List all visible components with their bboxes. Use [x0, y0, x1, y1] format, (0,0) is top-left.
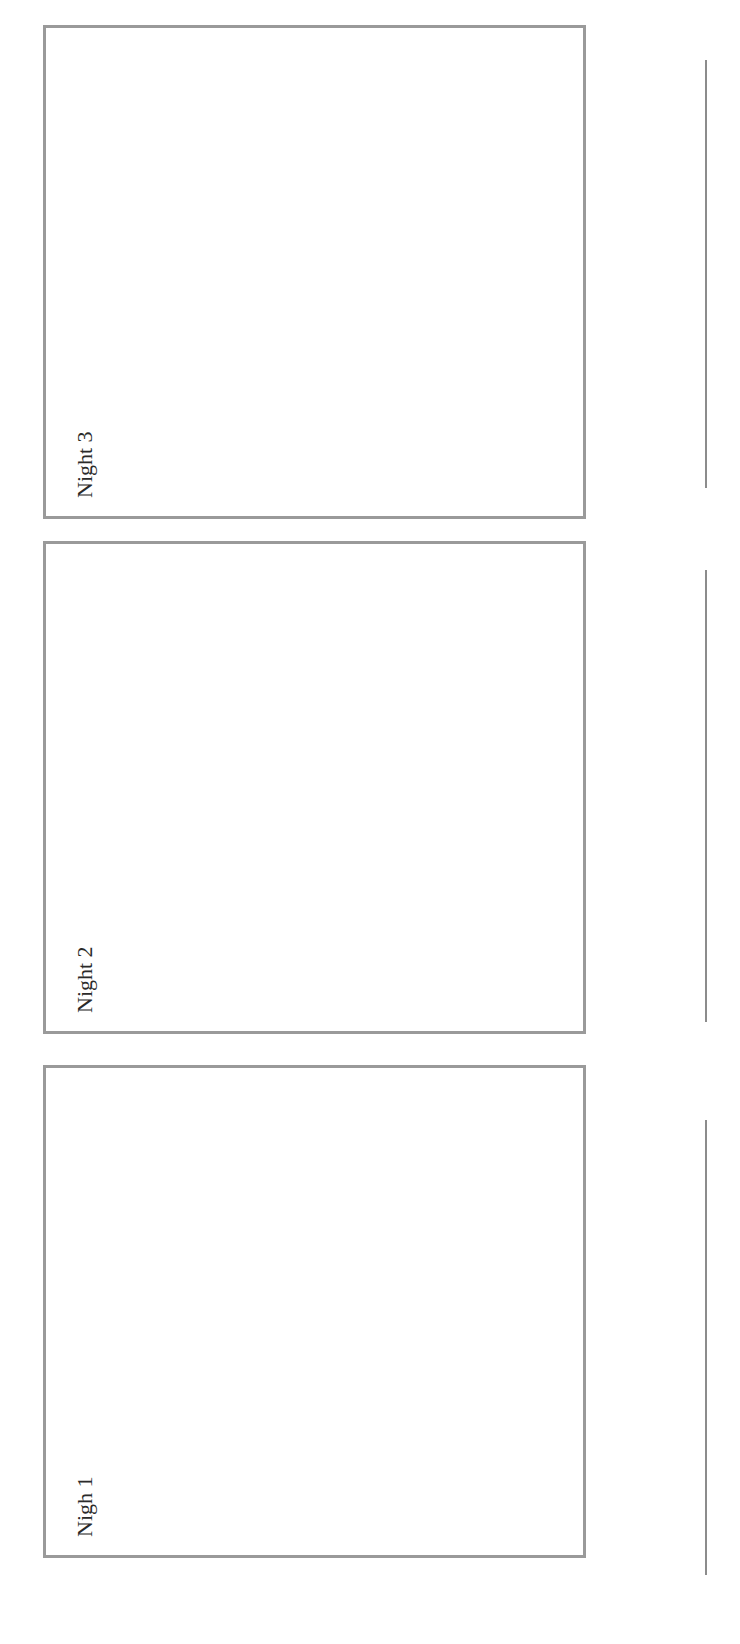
drawing-panel-night-3: Night 3	[43, 25, 586, 519]
writing-line-night-2	[705, 570, 707, 1022]
panel-label-night-2: Night 2	[74, 946, 96, 1013]
drawing-panel-night-2: Night 2	[43, 541, 586, 1034]
panel-label-night-3: Night 3	[74, 431, 96, 498]
drawing-panel-night-1: Nigh 1	[43, 1065, 586, 1558]
writing-line-night-3	[705, 60, 707, 488]
panel-label-night-1: Nigh 1	[74, 1477, 96, 1538]
writing-line-night-1	[705, 1120, 707, 1575]
